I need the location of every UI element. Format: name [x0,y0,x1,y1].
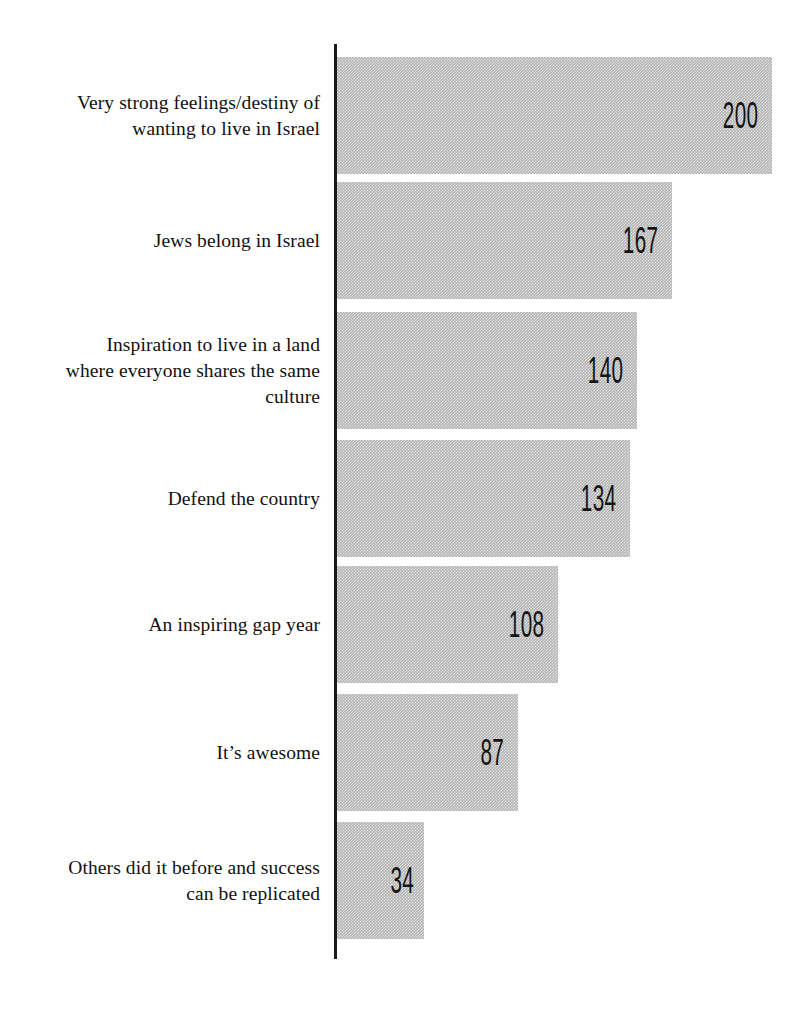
category-label: An inspiring gap year [8,566,320,683]
chart-row: Inspiration to live in a land where ever… [0,312,809,429]
category-label: It’s awesome [8,694,320,811]
chart-row: Jews belong in Israel 167 [0,182,809,299]
category-label: Others did it before and success can be … [8,822,320,939]
category-label: Jews belong in Israel [8,182,320,299]
bar-container: 108 [337,566,558,683]
bar-value-label: 108 [509,566,544,683]
bar-value-label: 200 [723,57,758,174]
plot-area: Very strong feelings/destiny of wanting … [0,0,809,1028]
bar-value-label: 34 [390,822,414,939]
chart-row: Very strong feelings/destiny of wanting … [0,57,809,174]
bar-container: 34 [337,822,424,939]
bar-container: 134 [337,440,630,557]
bar-container: 140 [337,312,637,429]
bar-value-label: 140 [588,312,623,429]
horizontal-bar-chart: Very strong feelings/destiny of wanting … [0,0,809,1028]
category-label: Defend the country [8,440,320,557]
chart-row: Others did it before and success can be … [0,822,809,939]
category-label: Inspiration to live in a land where ever… [8,312,320,429]
bar-container: 167 [337,182,672,299]
bar-container: 87 [337,694,518,811]
bar[interactable] [337,57,772,174]
category-label: Very strong feelings/destiny of wanting … [8,57,320,174]
chart-row: It’s awesome 87 [0,694,809,811]
bar-value-label: 167 [623,182,658,299]
chart-row: An inspiring gap year 108 [0,566,809,683]
bar[interactable] [337,182,672,299]
chart-row: Defend the country 134 [0,440,809,557]
bar-container: 200 [337,57,772,174]
bar-value-label: 87 [480,694,504,811]
bar-value-label: 134 [581,440,616,557]
